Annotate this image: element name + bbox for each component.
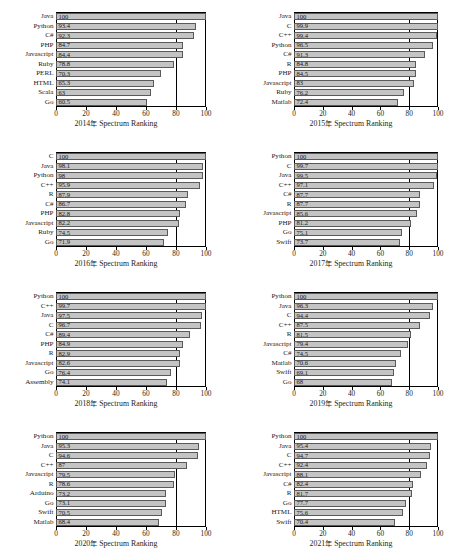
bar-row: 75.6: [294, 508, 438, 518]
bar: 94.6: [56, 452, 198, 459]
bar: 100: [56, 13, 206, 20]
bar-value-label: 79.4: [297, 341, 309, 348]
category-label: C#: [232, 349, 294, 359]
plot-area: 10096.394.487.581.579.474.570.669.168: [294, 292, 438, 387]
tick-label: 0: [292, 110, 296, 117]
bar-row: 60.5: [56, 98, 206, 108]
category-axis: PythonJavaCC++JavascriptRArduinoGoSwiftM…: [0, 432, 56, 527]
bar-row: 91.3: [294, 50, 438, 60]
category-label: R: [0, 480, 56, 490]
category-label: Ruby: [232, 88, 294, 98]
tick-label: 40: [112, 110, 119, 117]
category-label: C: [0, 321, 56, 331]
category-label: Javascript: [0, 219, 56, 229]
bar-row: 84.8: [294, 60, 438, 70]
bar-value-label: 84.7: [59, 42, 71, 49]
bar-value-label: 68.4: [59, 519, 71, 526]
x-axis-ticks: 020406080100: [294, 527, 438, 536]
bar-row: 100: [294, 152, 438, 162]
tick-label: 100: [433, 390, 444, 397]
category-label: Java: [0, 162, 56, 172]
bar-value-label: 82.9: [59, 350, 71, 357]
bar: 81.7: [294, 490, 412, 497]
chart-panel-2016: CJavaPythonC++RC#PHPJavascriptRubyGo1009…: [0, 140, 232, 280]
year-suffix-char: 年: [90, 399, 97, 408]
bar: 68.4: [56, 519, 159, 526]
bar-row: 73.1: [56, 499, 206, 509]
bar-row: 86.7: [56, 200, 206, 210]
category-label: Ruby: [0, 60, 56, 70]
bar: 65.3: [56, 80, 154, 87]
x-axis-ticks: 020406080100: [294, 247, 438, 256]
bar-value-label: 71.9: [59, 239, 71, 246]
bar-value-label: 100: [59, 433, 69, 440]
bar-row: 87.9: [56, 190, 206, 200]
category-label: Javascript: [0, 359, 56, 369]
bar: 76.4: [56, 369, 171, 376]
category-label: Swift: [232, 238, 294, 248]
category-label: Python: [232, 152, 294, 162]
category-label: Javascript: [232, 470, 294, 480]
category-label: C: [232, 311, 294, 321]
bar-value-label: 70.4: [297, 519, 309, 526]
bar-value-label: 100: [297, 153, 307, 160]
bar: 84.8: [294, 61, 416, 68]
category-label: Go: [232, 228, 294, 238]
bar: 70.3: [56, 70, 161, 77]
bar-value-label: 60.5: [59, 99, 71, 106]
category-label: C: [0, 152, 56, 162]
bar: 82.2: [56, 220, 179, 227]
tick-label: 100: [433, 110, 444, 117]
category-label: PERL: [0, 69, 56, 79]
tick-label: 0: [54, 390, 58, 397]
bar-row: 77.7: [294, 499, 438, 509]
bar-value-label: 98.1: [59, 163, 71, 170]
bar-rows: 10099.799.597.187.787.785.681.275.173.7: [294, 152, 438, 247]
bar-value-label: 95.9: [59, 182, 71, 189]
category-label: C: [232, 22, 294, 32]
bar: 60.5: [56, 99, 147, 106]
category-label: Swift: [232, 518, 294, 528]
bar: 79.5: [56, 471, 175, 478]
tick-label: 80: [172, 110, 179, 117]
x-axis-label: 2017年 Spectrum Ranking: [232, 260, 464, 268]
bar-value-label: 79.5: [59, 471, 71, 478]
x-axis-label: 2021年 Spectrum Ranking: [232, 540, 464, 548]
category-label: Scala: [0, 88, 56, 98]
bar-row: 100: [294, 292, 438, 302]
bar-row: 89.4: [56, 330, 206, 340]
bar-row: 100: [56, 432, 206, 442]
category-label: Python: [0, 171, 56, 181]
category-label: Java: [0, 442, 56, 452]
tick-label: 40: [348, 530, 355, 537]
bar-rows: 10096.394.487.581.579.474.570.669.168: [294, 292, 438, 387]
bar: 96.5: [294, 42, 433, 49]
bar: 69.1: [294, 369, 394, 376]
bar: 94.7: [294, 452, 430, 459]
bar-value-label: 87.9: [59, 191, 71, 198]
tick-label: 100: [201, 250, 212, 257]
x-axis-ticks: 020406080100: [56, 527, 206, 536]
category-label: C#: [232, 190, 294, 200]
tick-label: 60: [377, 110, 384, 117]
category-axis: CJavaPythonC++RC#PHPJavascriptRubyGo: [0, 152, 56, 247]
category-label: Matlab: [0, 518, 56, 528]
category-label-list: PythonJavaCC++RJavascriptC#MatlabSwiftGo: [232, 292, 294, 387]
bar-value-label: 82.8: [59, 210, 71, 217]
category-label: C#: [0, 31, 56, 41]
bar-row: 82.8: [56, 209, 206, 219]
bar-value-label: 78.6: [59, 481, 71, 488]
tick-label: 0: [292, 390, 296, 397]
bar: 97.1: [294, 182, 434, 189]
bar: 78.6: [56, 481, 174, 488]
x-axis-label: 2019年 Spectrum Ranking: [232, 400, 464, 408]
chart-panel-2021: PythonJavaCC++JavascriptC#RGoHTMLSwift10…: [232, 420, 464, 560]
category-label-list: PythonC++JavaCC#PHPRJavascriptGoAssembly: [0, 292, 56, 387]
bar-value-label: 84.9: [59, 341, 71, 348]
bar: 79.4: [294, 341, 408, 348]
category-label: C: [232, 162, 294, 172]
tick-label: 60: [142, 530, 149, 537]
tick-label: 20: [319, 110, 326, 117]
category-label: R: [232, 330, 294, 340]
x-axis-ticks: 020406080100: [56, 247, 206, 256]
